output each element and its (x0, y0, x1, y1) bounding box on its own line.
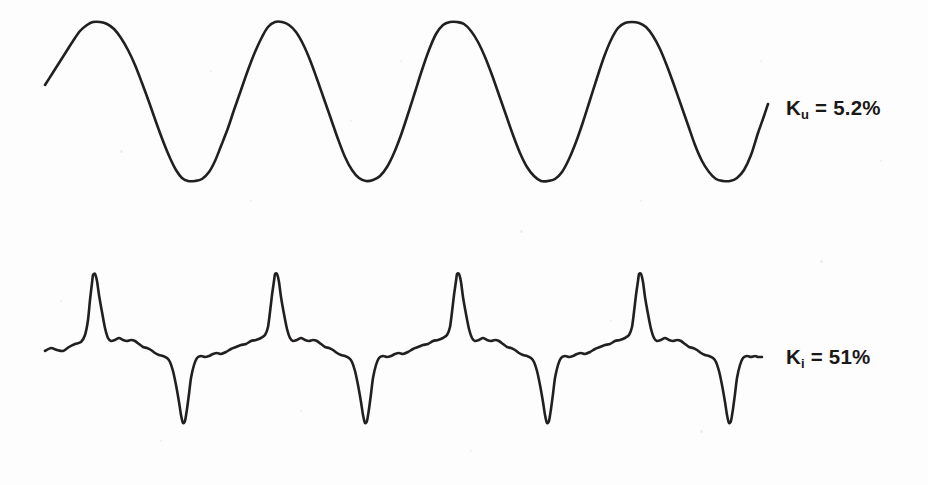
paper-speck (210, 70, 212, 72)
paper-speck (820, 260, 823, 263)
waveform-canvas (0, 0, 928, 485)
paper-speck (160, 440, 162, 442)
voltage-symbol: K (786, 96, 801, 119)
paper-speck (350, 120, 352, 122)
paper-speck (60, 300, 62, 302)
waveform-figure: Ku = 5.2% Ki = 51% (0, 0, 928, 485)
current-waveform-trace (45, 273, 762, 423)
voltage-distortion-label: Ku = 5.2% (786, 96, 881, 120)
voltage-waveform-trace (45, 21, 768, 181)
current-subscript: i (801, 356, 805, 371)
current-value: 51% (829, 345, 871, 368)
paper-speck (610, 320, 612, 322)
paper-speck (520, 230, 523, 233)
current-equals: = (805, 345, 829, 368)
paper-speck (700, 430, 703, 433)
voltage-value: 5.2% (833, 96, 881, 119)
paper-speck (400, 60, 402, 62)
current-distortion-label: Ki = 51% (786, 345, 870, 369)
current-symbol: K (786, 345, 801, 368)
voltage-equals: = (809, 96, 833, 119)
voltage-subscript: u (801, 107, 809, 122)
paper-speck (250, 200, 252, 202)
paper-speck (880, 160, 882, 162)
paper-speck (470, 450, 472, 452)
paper-speck (640, 200, 642, 202)
paper-speck (760, 60, 762, 62)
paper-speck (120, 150, 123, 153)
paper-speck (300, 410, 302, 412)
